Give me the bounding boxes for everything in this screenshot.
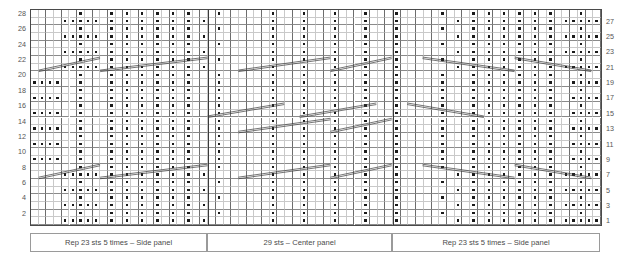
chart-cell	[393, 94, 401, 102]
chart-cell	[216, 33, 224, 41]
chart-cell	[578, 79, 586, 87]
chart-cell	[308, 18, 316, 26]
chart-cell	[478, 148, 486, 156]
chart-cell	[378, 171, 386, 179]
chart-cell	[208, 71, 216, 79]
chart-cell	[254, 79, 262, 87]
chart-cell	[46, 148, 54, 156]
chart-cell	[270, 71, 278, 79]
chart-cell	[316, 141, 324, 149]
chart-cell	[247, 10, 255, 18]
chart-cell	[570, 194, 578, 202]
chart-cell	[539, 187, 547, 195]
chart-cell	[216, 217, 224, 225]
chart-cell	[131, 10, 139, 18]
chart-cell	[462, 10, 470, 18]
chart-cell	[408, 202, 416, 210]
chart-cell	[378, 125, 386, 133]
chart-cell	[270, 48, 278, 56]
chart-cell	[247, 133, 255, 141]
chart-cell	[501, 217, 509, 225]
chart-cell	[39, 110, 47, 118]
chart-cell	[262, 25, 270, 33]
chart-cell	[539, 94, 547, 102]
chart-cell	[154, 133, 162, 141]
chart-cell	[593, 148, 601, 156]
chart-cell	[154, 156, 162, 164]
chart-cell	[93, 210, 101, 218]
chart-cell	[54, 41, 62, 49]
chart-cell	[462, 179, 470, 187]
chart-cell	[562, 156, 570, 164]
chart-cell	[216, 202, 224, 210]
chart-cell	[131, 41, 139, 49]
chart-cell	[139, 33, 147, 41]
chart-cell	[570, 187, 578, 195]
chart-cell	[277, 25, 285, 33]
chart-cell	[509, 56, 517, 64]
chart-cell	[293, 164, 301, 172]
chart-cell	[193, 79, 201, 87]
chart-cell	[401, 156, 409, 164]
chart-cell	[208, 133, 216, 141]
chart-cell	[509, 79, 517, 87]
chart-cell	[339, 94, 347, 102]
chart-cell	[216, 10, 224, 18]
chart-cell	[370, 194, 378, 202]
chart-cell	[555, 87, 563, 95]
chart-cell	[362, 133, 370, 141]
chart-cell	[439, 48, 447, 56]
chart-cell	[408, 102, 416, 110]
chart-cell	[455, 141, 463, 149]
chart-cell	[224, 179, 232, 187]
chart-cell	[293, 217, 301, 225]
chart-cell	[162, 56, 170, 64]
chart-cell	[509, 164, 517, 172]
chart-cell	[524, 194, 532, 202]
chart-cell	[501, 118, 509, 126]
chart-cell	[116, 187, 124, 195]
chart-cell	[93, 64, 101, 72]
chart-cell	[524, 110, 532, 118]
chart-cell	[331, 210, 339, 218]
chart-cell	[70, 118, 78, 126]
chart-cell	[147, 133, 155, 141]
chart-cell	[93, 33, 101, 41]
chart-cell	[370, 171, 378, 179]
chart-cell	[123, 141, 131, 149]
chart-cell	[555, 217, 563, 225]
chart-cell	[516, 102, 524, 110]
chart-cell	[524, 217, 532, 225]
chart-cell	[555, 171, 563, 179]
chart-cell	[339, 25, 347, 33]
chart-cell	[100, 25, 108, 33]
chart-cell	[570, 33, 578, 41]
chart-cell	[524, 71, 532, 79]
chart-cell	[393, 71, 401, 79]
chart-cell	[54, 125, 62, 133]
chart-cell	[270, 18, 278, 26]
chart-cell	[555, 148, 563, 156]
chart-cell	[193, 164, 201, 172]
chart-cell	[116, 110, 124, 118]
chart-cell	[355, 141, 363, 149]
chart-cell	[301, 217, 309, 225]
chart-cell	[70, 87, 78, 95]
chart-cell	[485, 179, 493, 187]
chart-cell	[31, 179, 39, 187]
chart-cell	[177, 133, 185, 141]
chart-cell	[200, 118, 208, 126]
chart-cell	[247, 87, 255, 95]
chart-cell	[331, 202, 339, 210]
chart-cell	[285, 179, 293, 187]
chart-cell	[524, 179, 532, 187]
chart-cell	[216, 79, 224, 87]
chart-cell	[555, 164, 563, 172]
chart-cell	[177, 179, 185, 187]
chart-cell	[316, 102, 324, 110]
chart-cell	[254, 179, 262, 187]
chart-cell	[262, 141, 270, 149]
chart-cell	[586, 79, 594, 87]
chart-cell	[185, 64, 193, 72]
chart-cell	[139, 41, 147, 49]
